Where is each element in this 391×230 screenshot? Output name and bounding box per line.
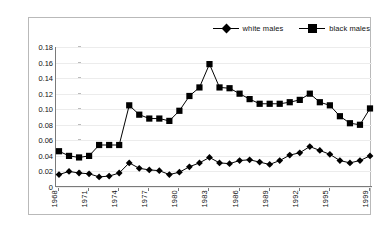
legend-label-black-males: black males	[329, 24, 370, 33]
x-axis-tick-label: 1992	[290, 190, 299, 208]
chart-legend: white males black males	[200, 21, 370, 35]
y-axis-tick-label: 0.06	[38, 136, 53, 145]
x-axis-tick-label: 1968	[50, 190, 59, 208]
data-point-square	[236, 91, 242, 97]
data-point-diamond	[296, 149, 303, 156]
data-point-square	[307, 91, 313, 97]
y-axis-tick-label: 0.02	[38, 167, 53, 176]
data-point-diamond	[316, 147, 323, 154]
legend-label-white-males: white males	[243, 24, 284, 33]
plot-area	[55, 47, 372, 187]
data-point-square	[156, 115, 162, 121]
y-axis-tick-label: 0.04	[38, 151, 53, 160]
data-point-diamond	[66, 168, 73, 175]
data-point-square	[287, 99, 293, 105]
data-point-diamond	[276, 157, 283, 164]
x-axis-tick-label: 1983	[200, 190, 209, 208]
data-point-square	[96, 142, 102, 148]
series-white-males	[56, 143, 374, 180]
data-point-square	[76, 154, 82, 160]
data-point-square	[106, 142, 112, 148]
data-point-diamond	[246, 156, 253, 163]
x-axis-tick-label: 1974	[110, 190, 119, 208]
data-point-diamond	[96, 173, 103, 180]
legend-item-white-males: white males	[213, 24, 284, 33]
x-axis-tick-label: 1999	[361, 190, 370, 208]
data-point-square	[116, 142, 122, 148]
series-layer	[56, 47, 373, 187]
data-point-diamond	[286, 152, 293, 159]
data-point-square	[327, 102, 333, 108]
square-marker-icon	[308, 24, 317, 33]
data-point-square	[257, 101, 263, 107]
data-point-square	[86, 153, 92, 159]
data-point-diamond	[306, 143, 313, 150]
data-point-square	[277, 101, 283, 107]
data-point-square	[56, 148, 62, 154]
data-point-square	[136, 112, 142, 118]
y-axis-tick-label: 0.18	[38, 43, 53, 52]
y-axis-tick-label: 0.14	[38, 74, 53, 83]
data-point-diamond	[347, 159, 354, 166]
diamond-marker-icon	[221, 23, 231, 33]
chart-container: white males black males 00.020.040.060.0…	[0, 0, 391, 230]
data-point-square	[196, 84, 202, 90]
x-axis-tick	[208, 188, 209, 191]
data-point-square	[126, 102, 132, 108]
data-point-diamond	[256, 159, 263, 166]
white-males-series-icon	[213, 24, 239, 33]
y-axis-labels: 00.020.040.060.080.100.120.140.160.18	[26, 41, 53, 193]
legend-item-black-males: black males	[299, 24, 370, 33]
data-point-diamond	[216, 159, 223, 166]
data-point-square	[317, 99, 323, 105]
data-point-diamond	[136, 165, 143, 172]
data-point-diamond	[226, 160, 233, 167]
data-point-square	[66, 153, 72, 159]
x-axis-tick-label: 1977	[140, 190, 149, 208]
data-point-diamond	[106, 173, 113, 180]
x-axis-tick-label: 1980	[170, 190, 179, 208]
data-point-diamond	[76, 170, 83, 177]
data-point-diamond	[266, 161, 273, 168]
data-point-square	[206, 61, 212, 67]
x-axis-tick-label: 1995	[320, 190, 329, 208]
y-axis-tick-label: 0.10	[38, 105, 53, 114]
data-point-square	[216, 84, 222, 90]
y-axis-tick-label: 0.16	[38, 58, 53, 67]
data-point-diamond	[236, 157, 243, 164]
data-point-diamond	[326, 151, 333, 158]
black-males-series-icon	[299, 24, 325, 33]
data-point-diamond	[56, 171, 63, 178]
data-point-diamond	[337, 157, 344, 164]
data-point-diamond	[357, 157, 364, 164]
x-axis-tick-label: 1986	[230, 190, 239, 208]
data-point-square	[146, 115, 152, 121]
data-point-square	[166, 118, 172, 124]
data-point-diamond	[156, 167, 163, 174]
x-axis-tick-label: 1989	[260, 190, 269, 208]
series-black-males	[56, 61, 373, 161]
data-point-square	[267, 101, 273, 107]
data-point-square	[357, 122, 363, 128]
data-point-square	[337, 113, 343, 119]
data-point-diamond	[146, 166, 153, 173]
data-point-square	[247, 96, 253, 102]
data-point-diamond	[196, 159, 203, 166]
y-axis-tick-label: 0.12	[38, 89, 53, 98]
data-point-square	[226, 85, 232, 91]
data-point-diamond	[186, 163, 193, 170]
x-axis-tick-label: 1971	[80, 190, 89, 208]
data-point-diamond	[166, 171, 173, 178]
data-point-square	[176, 108, 182, 114]
series-line	[59, 147, 370, 177]
x-axis-tick	[178, 188, 179, 191]
data-point-square	[186, 93, 192, 99]
data-point-square	[367, 105, 373, 111]
data-point-square	[347, 120, 353, 126]
x-axis-labels: 1968197119741977198019831986198919921995…	[55, 188, 372, 222]
data-point-diamond	[367, 152, 374, 159]
series-line	[59, 64, 370, 157]
data-point-diamond	[206, 154, 213, 161]
data-point-diamond	[86, 170, 93, 177]
data-point-diamond	[176, 169, 183, 176]
